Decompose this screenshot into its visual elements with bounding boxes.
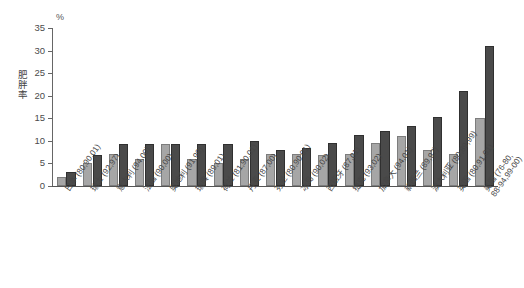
y-tick-label: 35 (34, 22, 45, 33)
bar (485, 46, 494, 186)
y-tick-mark (48, 51, 52, 52)
y-tick-label: 10 (34, 135, 45, 146)
y-axis-unit-label: % (56, 12, 64, 22)
y-tick-mark (48, 28, 52, 29)
y-tick-label: 5 (40, 157, 45, 168)
bar-group (53, 28, 79, 186)
y-tick-label: 0 (40, 180, 45, 191)
y-tick-mark (48, 96, 52, 97)
y-tick-mark (48, 118, 52, 119)
y-tick-label: 30 (34, 45, 45, 56)
y-tick-label: 20 (34, 90, 45, 101)
y-tick-mark (48, 163, 52, 164)
y-axis-title: 肥胖率 (14, 70, 28, 100)
y-tick-mark (48, 141, 52, 142)
y-tick-label: 25 (34, 67, 45, 78)
x-axis-category-labels: 日本 (80,90,01)瑞士 (92,97)意大利 (94,00)法国 (90… (52, 188, 506, 288)
y-tick-label: 15 (34, 112, 45, 123)
y-tick-mark (48, 186, 52, 187)
y-tick-mark (48, 73, 52, 74)
